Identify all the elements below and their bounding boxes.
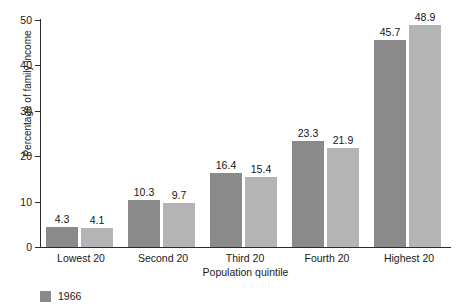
bar: [81, 228, 113, 247]
bar-value-label: 15.4: [241, 164, 281, 175]
y-axis-tick-label: 40: [0, 60, 32, 70]
bar-value-label: 4.3: [42, 214, 82, 225]
bar: [163, 203, 195, 247]
x-axis-category-label: Highest 20: [361, 252, 457, 264]
y-axis-tick: [35, 247, 41, 248]
y-axis-tick-label: 20: [0, 151, 32, 161]
bar-value-label: 48.9: [405, 12, 445, 23]
bar: [46, 227, 78, 247]
grouped-bar-chart: Percentage of family income Population q…: [0, 0, 458, 306]
bar-group: 45.748.9: [368, 20, 450, 247]
bar-value-label: 21.9: [323, 135, 363, 146]
y-axis-tick-label: 0: [0, 242, 32, 252]
bar: [374, 40, 406, 247]
bar: [128, 200, 160, 247]
bar-value-label: 23.3: [288, 128, 328, 139]
bar-group: 4.34.1: [40, 20, 122, 247]
bar: [245, 177, 277, 247]
bar: [210, 173, 242, 247]
bar-value-label: 9.7: [159, 190, 199, 201]
bar: [292, 141, 324, 247]
x-axis-line: [40, 247, 451, 248]
bar-group: 23.321.9: [286, 20, 368, 247]
legend-label: 1966: [58, 290, 81, 302]
bar: [327, 148, 359, 247]
y-axis-tick-label: 50: [0, 15, 32, 25]
bar-group: 10.39.7: [122, 20, 204, 247]
y-axis-tick-label: 30: [0, 106, 32, 116]
bar-value-label: 45.7: [370, 27, 410, 38]
bar-value-label: 16.4: [206, 160, 246, 171]
x-axis-title: Population quintile: [40, 266, 451, 278]
bar: [409, 25, 441, 247]
y-axis-tick-label: 10: [0, 197, 32, 207]
bar-group: 16.415.4: [204, 20, 286, 247]
bar-value-label: 10.3: [124, 187, 164, 198]
legend-item[interactable]: 1966: [40, 290, 81, 302]
bar-value-label: 4.1: [77, 215, 117, 226]
legend-swatch: [40, 291, 51, 302]
